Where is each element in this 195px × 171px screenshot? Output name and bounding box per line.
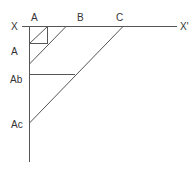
label-x-right: X' [180,21,189,32]
label-side-a: A [11,46,18,57]
geometric-diagram: X X' A B C A Ab Ac [0,0,195,171]
label-side-ab: Ab [10,74,23,85]
label-x-left: X [11,21,18,32]
diagonal-a-line [30,27,48,44]
label-top-c: C [116,12,123,23]
label-side-ac: Ac [11,119,23,130]
label-top-a: A [31,12,38,23]
label-top-b: B [77,12,84,23]
